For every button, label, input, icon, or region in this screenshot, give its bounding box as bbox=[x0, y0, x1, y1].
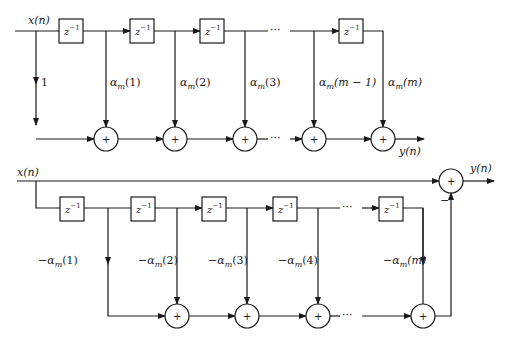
bottom-prediction-error-diagram: x(n) y(n) + − ··· z−1 z−1 z−1 z−1 z−1 −α… bbox=[17, 162, 494, 328]
bottom-delay-block-3: z−1 bbox=[202, 197, 226, 221]
top-tap-label-2: αm(2) bbox=[180, 76, 211, 91]
svg-text:+: + bbox=[379, 134, 387, 145]
bottom-input-label: x(n) bbox=[17, 166, 39, 179]
top-delay-block-3: z−1 bbox=[200, 19, 224, 43]
top-tap-label-1: αm(1) bbox=[110, 76, 141, 91]
bottom-adder-ellipsis: ··· bbox=[342, 309, 353, 322]
top-delay-block-m: z−1 bbox=[339, 19, 363, 43]
top-delay-ellipsis: ··· bbox=[270, 24, 281, 37]
bottom-adder-2: + bbox=[165, 304, 189, 328]
diagram-canvas: x(n) ··· z−1 z−1 z−1 z−1 1 bbox=[0, 0, 509, 340]
top-tap-label-3: αm(3) bbox=[250, 76, 281, 91]
top-adder-m: + bbox=[371, 127, 395, 151]
bottom-adder-m: + bbox=[411, 304, 435, 328]
top-fir-diagram: x(n) ··· z−1 z−1 z−1 z−1 1 bbox=[15, 14, 424, 158]
bottom-adder-3: + bbox=[235, 304, 259, 328]
top-tap-label-m-minus-1: αm(m − 1) bbox=[319, 76, 376, 91]
top-adder-1: + bbox=[94, 127, 118, 151]
top-delay-block-2: z−1 bbox=[130, 19, 154, 43]
bottom-tap-label-3: −αm(3) bbox=[208, 254, 248, 269]
bottom-delay-block-1: z−1 bbox=[60, 197, 84, 221]
top-adder-ellipsis: ··· bbox=[270, 132, 281, 145]
top-adder-2: + bbox=[163, 127, 187, 151]
top-delay-block-1: z−1 bbox=[59, 19, 83, 43]
bottom-minus-sign: − bbox=[440, 194, 449, 207]
bottom-delay-block-2: z−1 bbox=[131, 197, 155, 221]
bottom-output-adder: + bbox=[439, 169, 463, 193]
bottom-delay-block-4: z−1 bbox=[273, 197, 297, 221]
svg-text:+: + bbox=[171, 134, 179, 145]
bottom-adder-4: + bbox=[306, 304, 330, 328]
bottom-delay-block-m: z−1 bbox=[379, 197, 403, 221]
bottom-tap-label-m: −αm(m) bbox=[383, 254, 426, 269]
svg-text:+: + bbox=[310, 134, 318, 145]
svg-text:+: + bbox=[243, 311, 251, 322]
top-adder-3: + bbox=[233, 127, 257, 151]
svg-text:+: + bbox=[447, 176, 455, 187]
top-input-label: x(n) bbox=[28, 14, 50, 27]
top-tap-label-0: 1 bbox=[41, 76, 48, 89]
svg-text:+: + bbox=[173, 311, 181, 322]
svg-text:+: + bbox=[241, 134, 249, 145]
bottom-feedback-to-output bbox=[435, 193, 451, 316]
bottom-delay-ellipsis: ··· bbox=[342, 201, 353, 214]
svg-text:+: + bbox=[102, 134, 110, 145]
top-output-label: y(n) bbox=[398, 145, 421, 158]
svg-text:+: + bbox=[314, 311, 322, 322]
svg-text:+: + bbox=[419, 311, 427, 322]
bottom-tap-label-1: −αm(1) bbox=[38, 254, 78, 269]
bottom-output-label: y(n) bbox=[469, 162, 492, 175]
top-adder-m-minus-1: + bbox=[302, 127, 326, 151]
top-tap-label-m: αm(m) bbox=[388, 76, 422, 91]
bottom-tap-label-2: −αm(2) bbox=[138, 254, 178, 269]
bottom-tap-label-4: −αm(4) bbox=[278, 254, 318, 269]
